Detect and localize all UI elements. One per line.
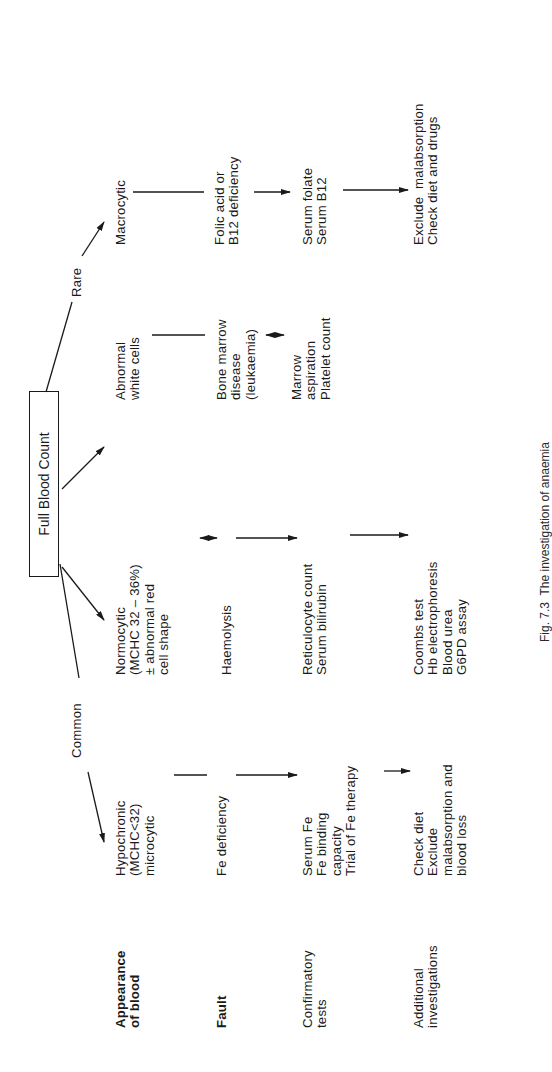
full-blood-count-label: Full Blood Count	[36, 432, 52, 536]
cell-hypochromic-confirmatory: Serum FeFe bindingcapacityTrial of Fe th…	[301, 766, 359, 876]
cell-abnormal-white-appearance: Abnormalwhite cells	[114, 337, 143, 400]
row-label-confirmatory: Confirmatorytests	[301, 950, 330, 1028]
cell-macrocytic-fault: Folic acid orB12 deficiency	[213, 156, 242, 245]
row-label-fault: Fault	[215, 995, 229, 1028]
figure-caption: Fig. 7.3 The investigation of anaemia	[538, 442, 552, 642]
branch-label-common: Common	[70, 703, 84, 758]
line-root-to-common	[60, 564, 79, 678]
full-blood-count-box: Full Blood Count	[29, 391, 59, 577]
cell-hypochromic-appearance: Hypochronic(MCHC<32)microcytic	[114, 801, 157, 877]
cell-macrocytic-confirmatory: Serum folateSerum B12	[301, 168, 330, 245]
line-root-to-rare	[46, 302, 72, 392]
cell-macrocytic-appearance: Macrocytic	[114, 180, 128, 245]
cell-normocytic-fault: Haemolysis	[220, 605, 234, 675]
cell-abnormal-white-confirmatory: MarrowaspirationPlatelet count	[290, 317, 333, 400]
branch-label-rare: Rare	[70, 268, 84, 297]
cell-normocytic-appearance: Normocytic(MCHC 32 – 36%)± abnormal redc…	[114, 564, 172, 675]
cell-hypochromic-additional: Check dietExcludemalabsorption andblood …	[412, 764, 470, 876]
cell-normocytic-additional: Coombs testHb electrophoresisBlood ureaG…	[412, 561, 470, 675]
cell-abnormal-white-fault: Bone marrowdisease(leukaemia)	[215, 319, 258, 400]
arrow-common-to-hypochromic	[88, 772, 104, 842]
cell-normocytic-confirmatory: Reticulocyte countSerum bilirubin	[301, 564, 330, 675]
arrow-root-to-abnormal-white	[62, 447, 104, 489]
cell-hypochromic-fault: Fe deficiency	[215, 796, 229, 876]
arrow-rare-to-macrocytic	[82, 222, 104, 256]
row-label-appearance: Appearanceof blood	[114, 951, 143, 1029]
row-label-additional: Additionalinvestigations	[412, 945, 441, 1028]
cell-macrocytic-additional: Exclude malabsorptionCheck diet and drug…	[412, 104, 441, 245]
